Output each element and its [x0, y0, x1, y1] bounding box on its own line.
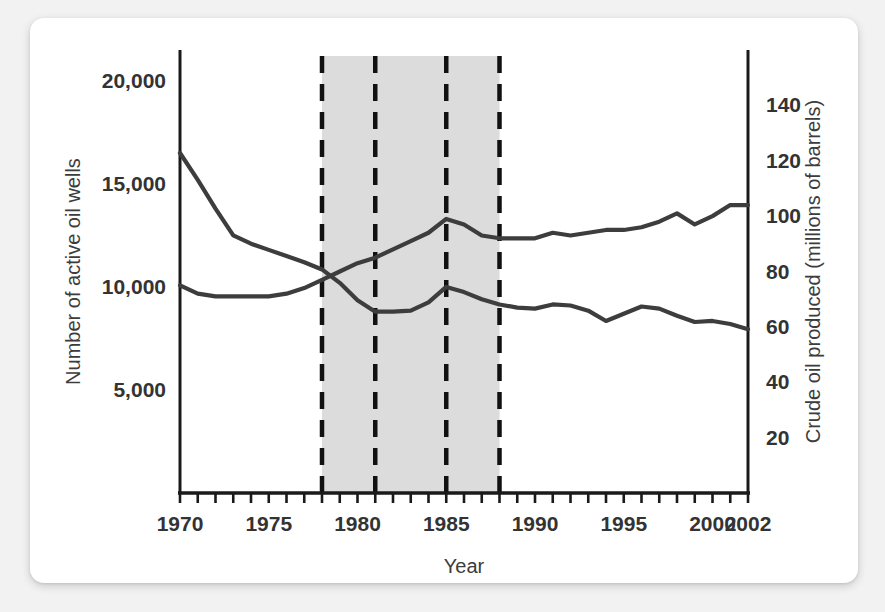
- chart-card: 5,00010,00015,00020,000 2040608010012014…: [30, 18, 858, 583]
- right-axis-tick-labels: 20406080100120140: [766, 93, 801, 448]
- left-axis-title: Number of active oil wells: [62, 158, 84, 385]
- left-tick-label-10000: 10,000: [102, 275, 166, 298]
- right-tick-label-60: 60: [766, 315, 789, 338]
- x-axis-tick-labels: 19701975198019851990199520002002: [157, 512, 772, 535]
- x-tick-label-1970: 1970: [157, 512, 204, 535]
- left-tick-label-5000: 5,000: [113, 378, 166, 401]
- x-tick-label-1990: 1990: [512, 512, 559, 535]
- left-tick-label-20000: 20,000: [102, 69, 166, 92]
- x-tick-label-1975: 1975: [245, 512, 292, 535]
- screenshot-root: 5,00010,00015,00020,000 2040608010012014…: [0, 0, 885, 612]
- oil-wells-and-crude-production-line-chart: 5,00010,00015,00020,000 2040608010012014…: [30, 18, 858, 583]
- right-tick-label-20: 20: [766, 426, 789, 449]
- right-tick-label-40: 40: [766, 370, 789, 393]
- x-tick-label-1995: 1995: [600, 512, 647, 535]
- right-tick-label-80: 80: [766, 260, 789, 283]
- x-tick-label-2002: 2002: [725, 512, 772, 535]
- right-tick-label-120: 120: [766, 149, 801, 172]
- right-axis-title: Crude oil produced (millions of barrels): [802, 100, 824, 443]
- shaded-region: [322, 56, 500, 493]
- x-axis-title: Year: [444, 555, 485, 577]
- right-tick-label-100: 100: [766, 204, 801, 227]
- left-axis-tick-labels: 5,00010,00015,00020,000: [102, 69, 166, 401]
- x-tick-label-1980: 1980: [334, 512, 381, 535]
- left-tick-label-15000: 15,000: [102, 172, 166, 195]
- right-tick-label-140: 140: [766, 93, 801, 116]
- x-tick-label-1985: 1985: [423, 512, 470, 535]
